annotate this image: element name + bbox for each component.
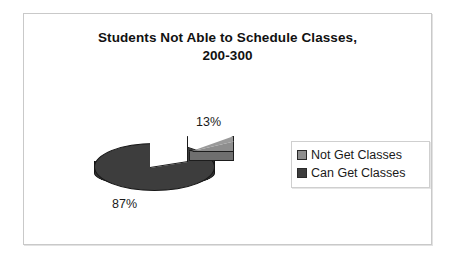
chart-frame: Students Not Able to Schedule Classes, 2… bbox=[23, 13, 432, 245]
legend-item-not-get-classes: Not Get Classes bbox=[297, 146, 424, 164]
legend-swatch-icon-not-get-classes bbox=[297, 150, 307, 160]
chart-title: Students Not Able to Schedule Classes, 2… bbox=[24, 29, 431, 65]
chart-title-line-2: 200-300 bbox=[24, 47, 431, 65]
legend-swatch-icon-can-get-classes bbox=[297, 168, 307, 178]
legend-label-not-get-classes: Not Get Classes bbox=[311, 148, 402, 162]
pie-label-can-get-classes: 87% bbox=[112, 197, 137, 211]
legend-item-can-get-classes: Can Get Classes bbox=[297, 164, 424, 182]
legend-label-can-get-classes: Can Get Classes bbox=[311, 166, 405, 180]
pie-chart: 13% 87% bbox=[84, 109, 284, 229]
chart-legend: Not Get Classes Can Get Classes bbox=[291, 141, 430, 188]
pie-label-not-get-classes: 13% bbox=[196, 115, 221, 129]
chart-title-line-1: Students Not Able to Schedule Classes, bbox=[98, 30, 357, 45]
